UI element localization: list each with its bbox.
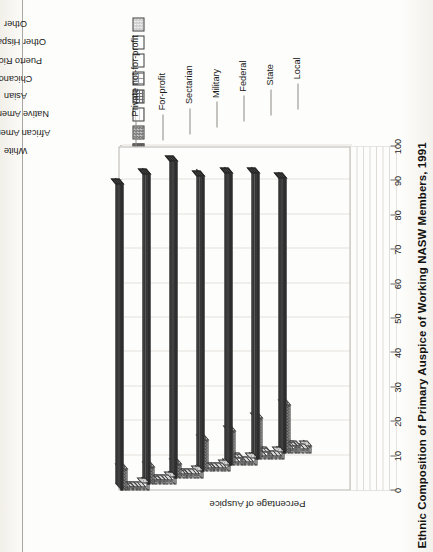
bar xyxy=(205,440,208,471)
bar xyxy=(290,449,293,452)
bar xyxy=(169,480,172,483)
bar-face xyxy=(174,161,177,477)
bar xyxy=(196,474,199,477)
gridline xyxy=(119,385,351,386)
bar xyxy=(120,184,123,490)
category-leader-line xyxy=(216,101,217,127)
bar xyxy=(124,469,127,490)
legend-item: Other Hispanic xyxy=(8,34,144,50)
bar-face xyxy=(301,449,304,452)
value-axis-tick xyxy=(390,351,396,352)
chart-floor xyxy=(350,146,396,490)
legend-item-label: Asian xyxy=(4,89,27,103)
bar xyxy=(305,449,308,452)
bar xyxy=(259,418,262,459)
value-axis-tick xyxy=(390,386,396,387)
bar xyxy=(178,464,181,478)
bar xyxy=(165,480,168,483)
bar xyxy=(201,176,204,472)
bar-face xyxy=(120,184,123,490)
bar xyxy=(301,449,304,452)
bar-face xyxy=(124,469,127,490)
category-leader-line xyxy=(297,83,298,109)
bar xyxy=(193,474,196,477)
legend-swatch-wrap xyxy=(52,17,144,31)
legend-item-label: Other Hispanic xyxy=(0,35,45,49)
bar xyxy=(174,161,177,477)
bar xyxy=(256,173,259,459)
bar xyxy=(229,173,232,465)
bar-face xyxy=(254,458,257,465)
value-axis-tick xyxy=(390,179,396,180)
legend-item-label: White xyxy=(3,143,27,157)
category-axis-label: State xyxy=(264,64,274,85)
gridline xyxy=(119,316,351,317)
bar xyxy=(182,474,185,477)
bar-face xyxy=(169,480,172,483)
category-leader-line xyxy=(270,89,271,115)
bar xyxy=(162,480,165,483)
category-axis-label: Sectarian xyxy=(183,65,193,104)
category-leader-line xyxy=(135,120,136,146)
bar-face xyxy=(201,176,204,472)
value-axis-tick xyxy=(390,283,396,284)
value-axis-tick xyxy=(390,455,396,456)
bar-face xyxy=(287,405,290,453)
bar xyxy=(127,487,130,490)
bar-face xyxy=(205,440,208,471)
value-axis-tick xyxy=(390,214,396,215)
legend-item: Puerto Rican xyxy=(8,52,144,68)
figure-stage: Ethnic Composition of Primary Auspice of… xyxy=(0,0,433,552)
category-axis-label: For-profit xyxy=(156,73,166,110)
bar-face xyxy=(147,174,150,484)
bar xyxy=(147,174,150,484)
value-axis-title: Percentage of Auspice xyxy=(209,499,305,510)
bar-face xyxy=(182,474,185,477)
bar xyxy=(270,456,273,459)
bar-face xyxy=(229,173,232,465)
bar-face xyxy=(305,449,308,452)
legend-item-label: Puerto Rican xyxy=(0,53,42,67)
bar xyxy=(297,446,300,453)
scanned-figure-page: Ethnic Composition of Primary Auspice of… xyxy=(0,0,433,552)
category-axis-label: Private not-for-profit xyxy=(129,35,139,116)
value-axis-tick xyxy=(390,317,396,318)
figure-title: Ethnic Composition of Primary Auspice of… xyxy=(415,142,427,548)
gridline xyxy=(119,178,351,179)
bar-face xyxy=(297,446,300,453)
category-leader-line xyxy=(162,114,163,140)
legend-item-label: Chicano xyxy=(0,71,32,85)
gridline xyxy=(119,282,351,283)
gridline xyxy=(119,247,351,248)
bar xyxy=(283,178,286,453)
rotated-figure: Ethnic Composition of Primary Auspice of… xyxy=(0,0,433,552)
category-leader-line xyxy=(189,108,190,134)
legend-item-label: Other xyxy=(4,17,27,31)
bar-face xyxy=(189,474,192,477)
bar xyxy=(158,480,161,483)
bar xyxy=(154,480,157,483)
bar-face xyxy=(290,449,293,452)
gridline xyxy=(119,213,351,214)
bar xyxy=(209,468,212,471)
value-axis-tick xyxy=(390,420,396,421)
bar-face xyxy=(158,480,161,483)
value-axis-tick xyxy=(390,489,396,490)
bar-face xyxy=(162,480,165,483)
bar-face xyxy=(165,480,168,483)
bar xyxy=(287,405,290,453)
bar-face xyxy=(193,474,196,477)
category-axis-label: Federal xyxy=(237,60,247,91)
bar-face xyxy=(196,474,199,477)
legend-item-label: Native American xyxy=(0,107,48,121)
plot-area: 0102030405060708090100 Percentage of Aus… xyxy=(118,70,396,490)
floor-polygon xyxy=(350,146,396,490)
bar xyxy=(185,474,188,477)
bar xyxy=(151,467,154,484)
gridline xyxy=(119,350,351,351)
category-axis: LocalStateFederalMilitarySectarianFor-pr… xyxy=(118,70,396,146)
legend-item-label: African American xyxy=(0,125,50,139)
bar xyxy=(263,456,266,459)
bar xyxy=(254,458,257,465)
category-leader-line xyxy=(243,95,244,121)
